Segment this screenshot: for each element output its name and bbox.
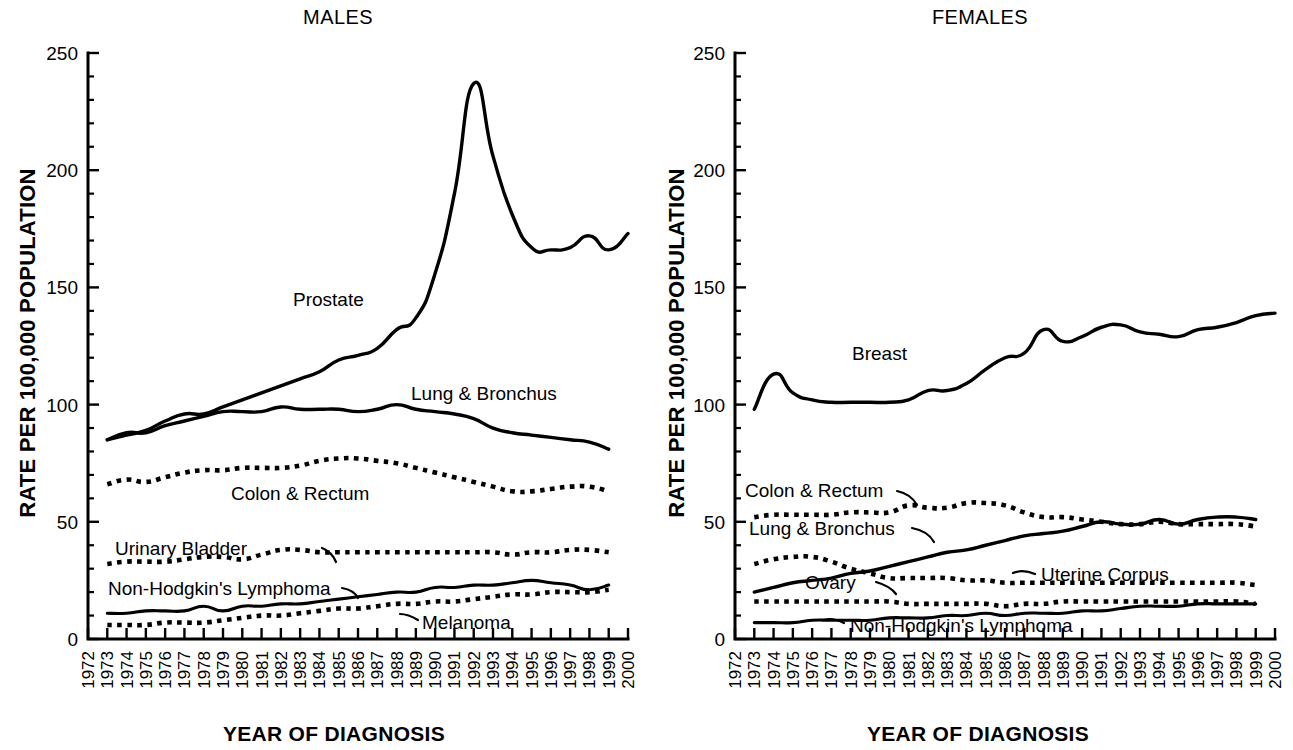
y-tick-label: 100 [46, 395, 78, 416]
y-tick-label: 150 [46, 277, 78, 298]
y-tick-label: 200 [46, 160, 78, 181]
label-ovary: Ovary [805, 572, 856, 593]
label-melanoma-males: Melanoma [422, 612, 511, 633]
x-tick-label: 1972 [726, 651, 745, 689]
x-tick-label: 1987 [1015, 651, 1034, 689]
x-tick-label: 1984 [957, 651, 976, 689]
label-prostate: Prostate [293, 289, 364, 310]
x-tick-label: 1978 [195, 651, 214, 689]
x-tick-label: 1987 [368, 651, 387, 689]
x-tick-label: 1996 [542, 651, 561, 689]
label-colon-males: Colon & Rectum [231, 483, 369, 504]
x-tick-label: 1973 [98, 651, 117, 689]
x-tick-label: 1983 [938, 651, 957, 689]
y-tick-label: 150 [693, 277, 725, 298]
y-tick-label: 50 [704, 512, 725, 533]
x-tick-label: 1981 [900, 651, 919, 689]
y-ticks-females: 050100150200250 [693, 43, 746, 650]
y-tick-label: 250 [46, 43, 78, 64]
x-tick-label: 1997 [1208, 651, 1227, 689]
x-tick-label: 1991 [445, 651, 464, 689]
x-tick-label: 1998 [580, 651, 599, 689]
x-tick-label: 1979 [861, 651, 880, 689]
x-tick-label: 1989 [407, 651, 426, 689]
x-tick-label: 1988 [1035, 651, 1054, 689]
y-tick-label: 0 [67, 629, 78, 650]
x-tick-label: 2000 [1266, 651, 1285, 689]
x-tick-label: 1986 [349, 651, 368, 689]
x-tick-label: 1974 [765, 651, 784, 689]
plot-females: 050100150200250 197219731974197519761977… [647, 0, 1293, 750]
x-tick-label: 1991 [1092, 651, 1111, 689]
x-tick-label: 1982 [272, 651, 291, 689]
y-tick-label: 250 [693, 43, 725, 64]
x-tick-label: 1977 [175, 651, 194, 689]
x-tick-label: 1974 [118, 651, 137, 689]
y-tick-label: 100 [693, 395, 725, 416]
y-tick-label: 200 [693, 160, 725, 181]
axes-females [735, 53, 1275, 639]
label-lung-females: Lung & Bronchus [749, 518, 895, 539]
label-breast: Breast [852, 343, 908, 364]
x-tick-label: 1989 [1054, 651, 1073, 689]
x-tick-label: 1975 [137, 651, 156, 689]
x-tick-label: 1996 [1189, 651, 1208, 689]
x-tick-label: 1988 [388, 651, 407, 689]
label-uterine: Uterine Corpus [1041, 564, 1169, 585]
x-tick-labels-males: 1972197319741975197619771978197919801981… [79, 651, 638, 689]
x-tick-labels-females: 1972197319741975197619771978197919801981… [726, 651, 1285, 689]
x-tick-label: 1981 [253, 651, 272, 689]
x-tick-label: 1986 [996, 651, 1015, 689]
x-tick-label: 1975 [784, 651, 803, 689]
x-tick-label: 1990 [1073, 651, 1092, 689]
x-tick-label: 1999 [1247, 651, 1266, 689]
panel-females: FEMALES RATE PER 100,000 POPULATION YEAR… [647, 0, 1293, 750]
x-tick-label: 1976 [156, 651, 175, 689]
x-tick-label: 1973 [745, 651, 764, 689]
x-tick-label: 1983 [291, 651, 310, 689]
x-tick-label: 1993 [1131, 651, 1150, 689]
label-colon-females: Colon & Rectum [745, 480, 883, 501]
x-tick-label: 1992 [1112, 651, 1131, 689]
label-nhl-males: Non-Hodgkin's Lymphoma [108, 578, 331, 599]
x-tick-label: 1997 [561, 651, 580, 689]
figure-root: MALES RATE PER 100,000 POPULATION YEAR O… [0, 0, 1293, 750]
x-tick-label: 2000 [619, 651, 638, 689]
x-tick-label: 1995 [523, 651, 542, 689]
x-ticks-males [88, 628, 628, 639]
y-tick-label: 50 [57, 512, 78, 533]
x-tick-label: 1995 [1170, 651, 1189, 689]
label-nhl-females: Non-Hodgkin's Lymphoma [850, 615, 1073, 636]
x-tick-label: 1977 [822, 651, 841, 689]
y-tick-label: 0 [714, 629, 725, 650]
x-tick-label: 1976 [803, 651, 822, 689]
panel-males: MALES RATE PER 100,000 POPULATION YEAR O… [0, 0, 646, 750]
x-tick-label: 1993 [484, 651, 503, 689]
x-tick-label: 1999 [600, 651, 619, 689]
series-line [107, 405, 608, 450]
series-line [754, 313, 1275, 409]
x-tick-label: 1992 [465, 651, 484, 689]
x-tick-label: 1978 [842, 651, 861, 689]
x-tick-label: 1985 [330, 651, 349, 689]
x-tick-label: 1990 [426, 651, 445, 689]
x-tick-label: 1980 [233, 651, 252, 689]
x-tick-label: 1980 [880, 651, 899, 689]
x-tick-label: 1979 [214, 651, 233, 689]
x-tick-label: 1972 [79, 651, 98, 689]
y-ticks-males: 050100150200250 [46, 43, 99, 650]
x-tick-label: 1998 [1227, 651, 1246, 689]
x-tick-label: 1994 [503, 651, 522, 689]
annotations-males: Prostate Lung & Bronchus Colon & Rectum … [108, 289, 557, 633]
x-tick-label: 1985 [977, 651, 996, 689]
x-tick-label: 1982 [919, 651, 938, 689]
x-tick-label: 1994 [1150, 651, 1169, 689]
x-tick-label: 1984 [310, 651, 329, 689]
label-lung-males: Lung & Bronchus [411, 383, 557, 404]
plot-males: 050100150200250 197219731974197519761977… [0, 0, 646, 750]
label-bladder-males: Urinary Bladder [115, 538, 248, 559]
